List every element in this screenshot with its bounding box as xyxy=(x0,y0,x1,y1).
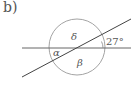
angle-arc-27 xyxy=(102,42,104,49)
angle-label-beta: β xyxy=(76,57,83,68)
angle-label-27: 27° xyxy=(106,36,124,47)
angle-label-delta: δ xyxy=(71,31,77,42)
angle-label-alpha: α xyxy=(53,47,60,58)
geometry-diagram: δ α β 27° xyxy=(0,0,140,96)
